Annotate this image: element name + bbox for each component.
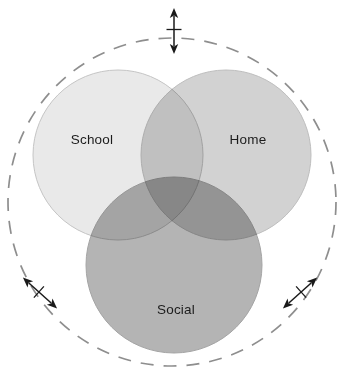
set-label-social: Social: [157, 302, 195, 317]
set-label-home: Home: [230, 132, 267, 147]
set-circle-social[interactable]: [86, 177, 262, 353]
set-label-school: School: [71, 132, 113, 147]
venn-diagram-container: School Home Social: [0, 0, 341, 373]
venn-diagram-canvas: School Home Social: [0, 0, 341, 373]
